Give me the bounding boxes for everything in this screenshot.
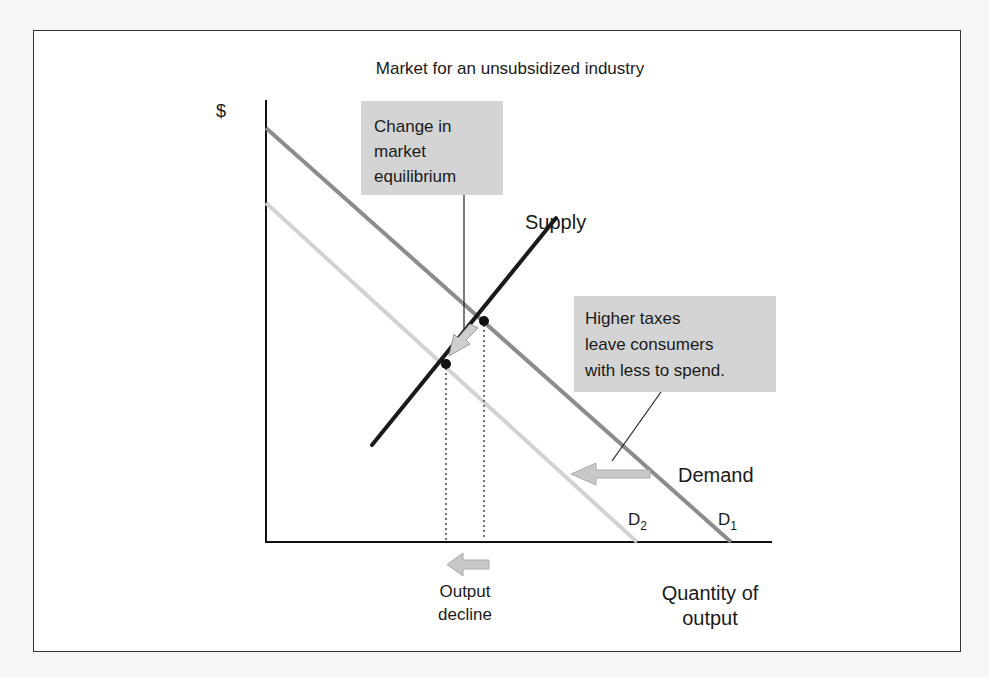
x-axis-label-line2: output: [682, 607, 738, 629]
equilibrium-callout-line1: Change in: [374, 117, 452, 136]
d1-label: D1: [718, 510, 737, 533]
taxes-callout-line1: Higher taxes: [585, 309, 680, 328]
equilibrium-callout-line2: market: [374, 142, 426, 161]
original-equilibrium-point: [479, 316, 489, 326]
equilibrium-callout-line3: equilibrium: [374, 167, 456, 186]
taxes-callout-line3: with less to spend.: [584, 361, 725, 380]
output-decline-arrow-icon: [447, 553, 489, 576]
d2-label: D2: [628, 510, 647, 533]
demand-shift-arrow-icon: [571, 463, 650, 485]
output-decline-line1: Output: [439, 582, 490, 601]
new-equilibrium-point: [441, 359, 451, 369]
supply-label: Supply: [525, 211, 586, 233]
market-diagram: Market for an unsubsidized industry $ Su…: [0, 0, 989, 677]
y-axis-label: $: [216, 101, 226, 121]
taxes-callout-line2: leave consumers: [585, 335, 714, 354]
x-axis-label-line1: Quantity of: [662, 582, 759, 604]
demand-label: Demand: [678, 464, 754, 486]
output-decline-line2: decline: [438, 605, 492, 624]
taxes-callout-pointer: [612, 392, 661, 461]
chart-title: Market for an unsubsidized industry: [376, 59, 645, 78]
